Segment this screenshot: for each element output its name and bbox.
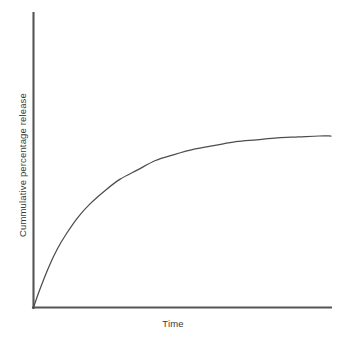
x-axis-label: Time [0,318,346,329]
release-curve-line [34,136,332,308]
chart-plot-area [0,0,346,346]
release-profile-chart: Cummulative percentage release Time [0,0,346,346]
